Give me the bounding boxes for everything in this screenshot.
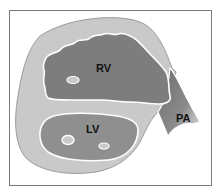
lv-papillary-muscle-1: [62, 136, 74, 145]
label-rv: RV: [96, 62, 112, 74]
lv-papillary-muscle-2: [99, 143, 109, 149]
lv-cavity: [40, 113, 138, 160]
heart-cross-section: RV LV PA: [0, 0, 221, 196]
label-pa: PA: [176, 112, 191, 124]
rv-papillary-muscle: [67, 77, 79, 84]
label-lv: LV: [86, 123, 100, 135]
